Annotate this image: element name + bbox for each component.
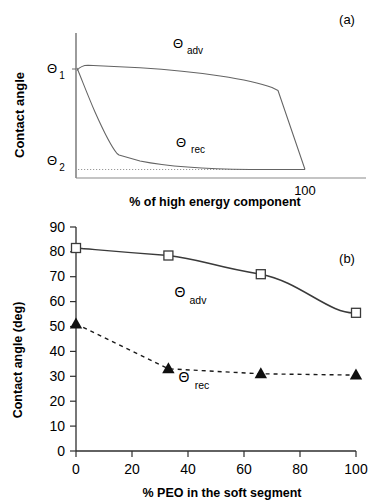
panel-b-y-tick-label-70: 70 xyxy=(49,268,65,284)
panel-b-y-tick-40: 40 xyxy=(49,343,76,359)
panel-b-x-tick-label-0: 0 xyxy=(72,461,80,477)
panel-a-annotation-theta-rec-glyph: Θ xyxy=(176,135,186,150)
panel-b-y-tick-label-60: 60 xyxy=(49,293,65,309)
panel-a-annotation-theta-rec: Θ rec xyxy=(176,135,205,155)
panel-b-y-tick-label-80: 80 xyxy=(49,243,65,259)
panel-b-x-tick-label-60: 60 xyxy=(236,461,252,477)
marker-filled-triangle xyxy=(255,367,267,378)
panel-b-y-tick-label-20: 20 xyxy=(49,393,65,409)
panel-b-x-tick-60: 60 xyxy=(236,451,252,477)
panel-a-y-tick-theta1: Θ 1 xyxy=(47,61,65,81)
panel-b-y-tick-30: 30 xyxy=(49,368,76,384)
panel-b-series-theta-adv-line xyxy=(76,248,356,313)
panel-a-annotation-theta-adv: Θ adv xyxy=(173,36,203,56)
panel-b-annotation-theta-rec-glyph: Θ xyxy=(179,369,190,385)
panel-b-markers-theta-rec xyxy=(70,318,362,380)
panel-b-markers-theta-adv xyxy=(72,244,361,318)
panel-b-y-tick-label-50: 50 xyxy=(49,318,65,334)
panel-b-x-tick-40: 40 xyxy=(180,451,196,477)
panel-b-y-tick-20: 20 xyxy=(49,393,76,409)
panel-a-y-tick-theta2-glyph: Θ xyxy=(47,153,57,168)
panel-b-y-tick-label-10: 10 xyxy=(49,418,65,434)
panel-b-y-axis-label: Contact angle (deg) xyxy=(11,302,25,419)
marker-filled-triangle xyxy=(70,318,82,329)
chart-panel-b: (b) Contact angle (deg) 0 10 20 xyxy=(0,205,378,501)
panel-b-x-ticks: 0 20 40 60 80 xyxy=(72,451,368,477)
marker-open-square xyxy=(352,308,361,317)
panel-b-annotation-theta-rec: Θ rec xyxy=(179,369,210,391)
panel-a-annotation-theta-rec-sub: rec xyxy=(191,144,205,155)
panel-b-x-tick-label-40: 40 xyxy=(180,461,196,477)
panel-a-annotation-theta-adv-glyph: Θ xyxy=(173,36,183,51)
panel-b-annotation-theta-adv-sub: adv xyxy=(190,294,208,306)
panel-b-x-tick-20: 20 xyxy=(124,451,140,477)
panel-b-annotation-theta-rec-sub: rec xyxy=(195,379,210,391)
chart-panel-a: (a) Contact angle Θ 1 Θ 2 xyxy=(0,0,378,210)
panel-b-x-tick-100: 100 xyxy=(344,451,368,477)
marker-filled-triangle xyxy=(162,362,174,373)
panel-a-y-tick-theta2-sub: 2 xyxy=(59,162,65,173)
panel-a-y-tick-theta1-glyph: Θ xyxy=(47,61,57,76)
panel-b-y-tick-10: 10 xyxy=(49,418,76,434)
panel-b-x-tick-80: 80 xyxy=(292,451,308,477)
panel-b-tag: (b) xyxy=(339,251,355,266)
panel-b-y-tick-label-90: 90 xyxy=(49,219,65,235)
marker-open-square xyxy=(164,251,173,260)
panel-b-x-tick-label-80: 80 xyxy=(292,461,308,477)
panel-a-y-tick-theta2: Θ 2 xyxy=(47,153,65,173)
panel-b-y-tick-0: 0 xyxy=(57,443,76,459)
figure-container: (a) Contact angle Θ 1 Θ 2 xyxy=(0,0,378,501)
panel-b-svg: (b) Contact angle (deg) 0 10 20 xyxy=(0,205,378,501)
panel-a-svg: (a) Contact angle Θ 1 Θ 2 xyxy=(0,0,378,210)
panel-b-x-axis-label: % PEO in the soft segment xyxy=(142,486,302,500)
panel-b-y-tick-label-30: 30 xyxy=(49,368,65,384)
panel-b-x-tick-label-20: 20 xyxy=(124,461,140,477)
panel-a-tag: (a) xyxy=(339,12,355,27)
marker-filled-triangle xyxy=(350,369,362,380)
panel-a-y-axis-label: Contact angle xyxy=(12,72,27,158)
marker-open-square xyxy=(256,270,265,279)
panel-b-annotation-theta-adv-glyph: Θ xyxy=(175,284,186,300)
panel-a-annotation-theta-adv-sub: adv xyxy=(187,45,203,56)
panel-b-x-tick-0: 0 xyxy=(72,451,80,477)
panel-b-y-tick-90: 90 xyxy=(49,219,76,235)
panel-b-x-tick-label-100: 100 xyxy=(344,461,368,477)
panel-a-y-tick-theta1-sub: 1 xyxy=(59,70,65,81)
panel-b-y-ticks: 0 10 20 30 40 xyxy=(49,219,76,459)
panel-b-annotation-theta-adv: Θ adv xyxy=(175,284,208,306)
panel-b-y-tick-label-0: 0 xyxy=(57,443,65,459)
panel-b-y-tick-label-40: 40 xyxy=(49,343,65,359)
panel-b-y-tick-60: 60 xyxy=(49,293,76,309)
marker-open-square xyxy=(72,244,81,253)
panel-b-series-theta-rec-line xyxy=(76,324,356,375)
panel-b-y-tick-70: 70 xyxy=(49,268,76,284)
